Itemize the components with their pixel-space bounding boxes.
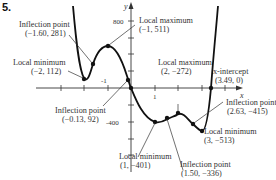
annotation-label: Local minimum	[204, 127, 257, 136]
x-tick-label-1: 1	[153, 93, 157, 101]
annotation-coords: (−1, 511)	[139, 25, 170, 34]
leader-lines	[68, 25, 223, 170]
point-x-intercept	[209, 86, 213, 90]
annotation-coords: (2.63, −415)	[227, 107, 268, 116]
annotation-coords: (3.49, 0)	[215, 76, 243, 85]
annotation-coords: (−2, 112)	[31, 67, 62, 76]
annotation-label: Inflection point	[180, 160, 231, 169]
annotation-coords: (3, −513)	[204, 136, 235, 145]
point-origin	[129, 86, 133, 90]
annotation-label: Local minimum	[119, 152, 172, 161]
y-axis-label: y	[123, 2, 128, 11]
x-tick-label-neg1: -1	[101, 77, 107, 85]
annotation-coords: (1, −401)	[120, 161, 151, 170]
annotation-label: Inflection point	[19, 20, 70, 29]
annotation-coords: (−1.60, 281)	[25, 29, 66, 38]
annotation-coords: (−0.13, 92)	[62, 115, 99, 124]
annotation-label: x-intercept	[213, 67, 249, 76]
y-axis-arrow-icon	[129, 2, 134, 9]
annotations: Inflection point (−1.60, 281) Local mini…	[13, 16, 276, 178]
x-axis-arrow-icon	[236, 86, 243, 91]
annotation-label: Local maximum	[158, 58, 213, 67]
annotation-label: Local minimum	[13, 58, 66, 67]
annotation-coords: (2, −272)	[161, 67, 192, 76]
y-tick-label-800: 800	[113, 18, 124, 26]
annotation-coords: (1.50, −336)	[181, 169, 222, 178]
annotation-label: Local maximum	[139, 16, 194, 25]
problem-number: 5.	[2, 1, 11, 13]
y-tick-label-neg400: -400	[106, 119, 119, 127]
function-graph: 5. y x -1 1 800 -400	[0, 0, 276, 180]
annotation-label: Inflection point	[55, 106, 106, 115]
annotation-label: Inflection point	[226, 98, 276, 107]
